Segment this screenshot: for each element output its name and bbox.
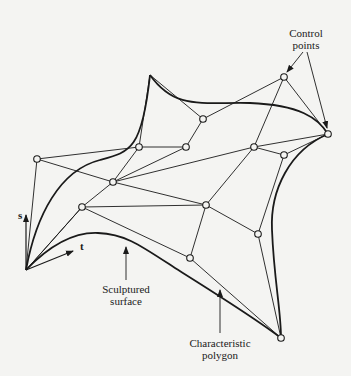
control-points-label: Control points <box>284 27 328 51</box>
polygon-col-1 <box>82 147 139 207</box>
control-point <box>251 144 258 151</box>
polygon-inner-link-3 <box>113 182 206 205</box>
control-points-label-line-1: Control <box>284 27 328 39</box>
control-point <box>136 144 143 151</box>
control-point <box>325 131 332 138</box>
sculptured-surface-boundary <box>26 75 328 338</box>
surface-edge-top <box>150 75 328 134</box>
control-point <box>255 231 262 238</box>
surface-edge-right <box>272 134 328 338</box>
polygon-inner-link-2 <box>254 147 284 155</box>
control-point <box>183 144 190 151</box>
control-points-label-line-2: points <box>284 39 328 51</box>
control-point <box>281 152 288 159</box>
control-point <box>278 335 285 342</box>
sculptured-surface-diagram: Control points Sculptured surface Charac… <box>0 0 351 376</box>
control-point-nodes <box>34 74 332 342</box>
control-point <box>34 156 41 163</box>
polygon-col-2 <box>186 119 203 147</box>
control-point <box>187 255 194 262</box>
control-point <box>200 116 207 123</box>
control-points-arrow-1 <box>287 52 303 72</box>
polygon-edge-right <box>258 134 328 338</box>
diagram-canvas <box>0 0 351 376</box>
control-point <box>281 74 288 81</box>
characteristic-polygon-label: Characteristic polygon <box>182 337 258 361</box>
sculptured-surface-label-line-1: Sculptured <box>96 283 156 295</box>
sculptured-surface-label: Sculptured surface <box>96 283 156 307</box>
control-point <box>203 202 210 209</box>
sculptured-surface-label-line-2: surface <box>96 295 156 307</box>
t-axis-label: t <box>80 240 84 252</box>
s-axis-label: s <box>18 209 22 221</box>
control-point <box>110 179 117 186</box>
characteristic-polygon-label-line-1: Characteristic <box>182 337 258 349</box>
control-point <box>79 204 86 211</box>
t-axis-arrow <box>26 251 73 270</box>
polygon-edge-top <box>150 75 328 134</box>
characteristic-polygon-label-line-2: polygon <box>182 349 258 361</box>
